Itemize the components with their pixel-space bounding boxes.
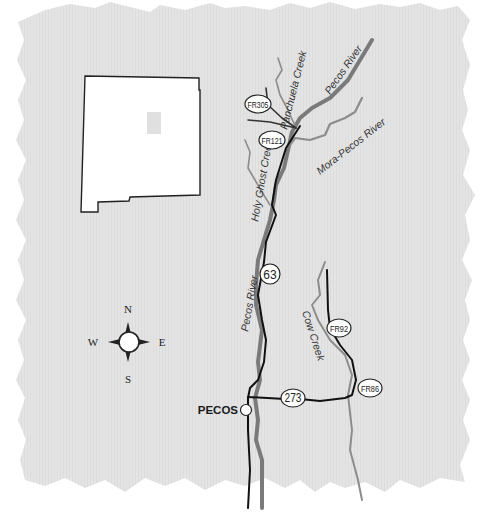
- study-area-marker: [147, 112, 161, 134]
- shield-fr121: FR121: [259, 131, 285, 149]
- shield-highway-63: 63: [260, 264, 280, 284]
- compass-north: N: [124, 303, 132, 315]
- svg-text:273: 273: [285, 391, 302, 405]
- map: Pecos River Mora-Pecos River Panchuela C…: [0, 0, 481, 525]
- svg-text:FR92: FR92: [330, 323, 348, 334]
- compass-east: E: [159, 336, 166, 348]
- shield-fr86: FR86: [358, 379, 382, 397]
- new-mexico-inset: [81, 76, 200, 212]
- shield-highway-273: 273: [281, 389, 305, 407]
- new-mexico-outline: [81, 76, 200, 212]
- svg-text:FR121: FR121: [262, 135, 283, 146]
- compass-south: S: [125, 373, 131, 385]
- town-label: PECOS: [198, 404, 239, 416]
- town-marker: [241, 405, 252, 416]
- town-pecos: PECOS: [198, 404, 252, 416]
- shield-fr305: FR305: [245, 95, 271, 113]
- compass-west: W: [88, 336, 99, 348]
- shield-fr92: FR92: [327, 319, 351, 337]
- svg-text:63: 63: [263, 268, 277, 282]
- svg-text:FR86: FR86: [361, 383, 379, 394]
- svg-text:FR305: FR305: [248, 99, 269, 110]
